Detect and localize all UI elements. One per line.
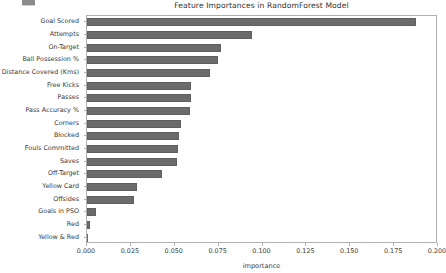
x-axis-tick-label: 0.050 bbox=[165, 247, 183, 255]
x-axis-tick-mark bbox=[393, 243, 394, 246]
x-axis-tick-mark bbox=[218, 243, 219, 246]
y-axis-label: Pass Accuracy % bbox=[26, 106, 79, 114]
x-axis-tick-mark bbox=[349, 243, 350, 246]
y-axis-label: Fouls Committed bbox=[25, 144, 79, 152]
x-axis-tick-mark bbox=[437, 243, 438, 246]
bar bbox=[87, 31, 252, 39]
y-axis-label: Yellow & Red bbox=[38, 233, 79, 241]
bar-row bbox=[87, 196, 436, 204]
y-axis-label: Off-Target bbox=[48, 169, 79, 177]
chart-title: Feature Importances in RandomForest Mode… bbox=[86, 1, 437, 10]
bar-row bbox=[87, 145, 436, 153]
x-axis-tick-mark bbox=[262, 243, 263, 246]
bar-row bbox=[87, 94, 436, 102]
bar-row bbox=[87, 69, 436, 77]
y-axis-label: Corners bbox=[54, 119, 79, 127]
x-axis-tick-mark bbox=[86, 243, 87, 246]
bar bbox=[87, 18, 416, 26]
x-axis-tick-label: 0.175 bbox=[384, 247, 402, 255]
x-axis-tick-mark bbox=[305, 243, 306, 246]
bar bbox=[87, 145, 178, 153]
y-axis-label: Passes bbox=[58, 93, 79, 101]
bar bbox=[87, 107, 190, 115]
x-axis-tick-label: 0.025 bbox=[121, 247, 139, 255]
y-axis-label: Ball Possession % bbox=[22, 55, 79, 63]
bar-row bbox=[87, 44, 436, 52]
bar-row bbox=[87, 221, 436, 229]
y-axis-category-labels: Goal ScoredAttemptsOn-TargetBall Possess… bbox=[0, 15, 84, 243]
x-axis-tick-label: 0.150 bbox=[340, 247, 358, 255]
x-axis-tick-label: 0.125 bbox=[296, 247, 314, 255]
cropped-ui-fragment bbox=[22, 0, 35, 6]
y-axis-label: Saves bbox=[60, 157, 79, 165]
bar-row bbox=[87, 56, 436, 64]
bar bbox=[87, 82, 191, 90]
bar-row bbox=[87, 107, 436, 115]
y-axis-label: Blocked bbox=[54, 131, 79, 139]
x-axis-tick-label: 0.075 bbox=[208, 247, 226, 255]
x-axis-tick-label: 0.000 bbox=[77, 247, 95, 255]
bar-row bbox=[87, 170, 436, 178]
y-axis-label: On-Target bbox=[48, 43, 79, 51]
bar-row bbox=[87, 18, 436, 26]
bar bbox=[87, 56, 218, 64]
y-axis-label: Goals in PSO bbox=[38, 207, 79, 215]
x-axis-title: importance bbox=[86, 262, 437, 270]
bar bbox=[87, 183, 137, 191]
x-axis-tick-mark bbox=[174, 243, 175, 246]
bar bbox=[87, 170, 162, 178]
bar-row bbox=[87, 158, 436, 166]
x-axis-tick-label: 0.200 bbox=[428, 247, 446, 255]
bar-row bbox=[87, 234, 436, 242]
y-axis-label: Goal Scored bbox=[40, 17, 79, 25]
y-axis-label: Red bbox=[67, 220, 79, 228]
bar-row bbox=[87, 31, 436, 39]
bar bbox=[87, 132, 179, 140]
y-axis-label: Free Kicks bbox=[47, 81, 79, 89]
bar bbox=[87, 158, 177, 166]
bar bbox=[87, 221, 90, 229]
y-axis-label: Offsides bbox=[53, 195, 79, 203]
y-axis-label: Attempts bbox=[50, 30, 79, 38]
bar-row bbox=[87, 208, 436, 216]
bar bbox=[87, 69, 210, 77]
bars-layer bbox=[87, 16, 436, 242]
bar-row bbox=[87, 183, 436, 191]
bar bbox=[87, 94, 191, 102]
figure-canvas: Feature Importances in RandomForest Mode… bbox=[0, 0, 446, 273]
x-axis-tick-mark bbox=[130, 243, 131, 246]
bar-row bbox=[87, 132, 436, 140]
bar bbox=[87, 208, 96, 216]
bar bbox=[87, 196, 134, 204]
x-axis-tick-label: 0.100 bbox=[252, 247, 270, 255]
bar-row bbox=[87, 82, 436, 90]
bar-row bbox=[87, 120, 436, 128]
plot-area bbox=[86, 15, 437, 243]
x-axis-ticks: 0.0000.0250.0500.0750.1000.1250.1500.175… bbox=[86, 243, 437, 263]
y-axis-label: Yellow Card bbox=[42, 182, 79, 190]
y-axis-label: Distance Covered (Kms) bbox=[2, 68, 79, 76]
bar bbox=[87, 120, 181, 128]
bar bbox=[87, 44, 221, 52]
